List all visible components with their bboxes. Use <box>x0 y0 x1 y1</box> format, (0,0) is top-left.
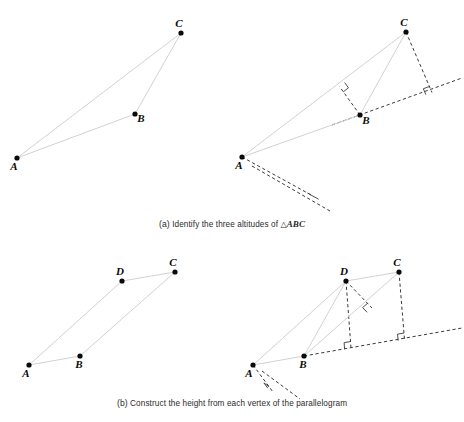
caption-b-text: Construct the height from each vertex of… <box>130 399 347 408</box>
edge-BC <box>360 32 406 115</box>
altitude-from-C-to-AB-extended <box>406 32 432 93</box>
caption-b: (b) Construct the height from each verte… <box>0 398 464 408</box>
vertex-label-B: B <box>74 358 82 370</box>
edge-BC <box>304 272 399 356</box>
altitude-from-B-to-AC <box>340 87 361 116</box>
caption-b-tag: (b) <box>117 398 128 408</box>
vertex-label-A: A <box>9 160 17 172</box>
panel-parallelogram-plain: ABCD <box>21 256 177 379</box>
edge-DA <box>253 281 346 365</box>
caption-a: (a) Identify the three altitudes of △ABC <box>0 219 464 229</box>
edge-AB <box>242 115 360 157</box>
altitude-from-D-to-BC <box>346 281 372 308</box>
vertex-C <box>178 30 183 35</box>
edge-BC <box>135 33 181 114</box>
vertex-label-C: C <box>169 256 177 268</box>
right-angle-mark <box>307 193 318 199</box>
vertex-label-C: C <box>175 17 183 29</box>
vertex-label-B: B <box>361 114 369 126</box>
geometry-figure: ABCABCABCDABCD (a) Identify the three al… <box>0 0 464 422</box>
edge-AC <box>242 32 406 157</box>
vertex-label-B: B <box>298 358 306 370</box>
panel-parallelogram-with-heights: ABCD <box>244 256 462 399</box>
panel-triangle-with-altitudes: ABC <box>234 16 462 211</box>
vertex-C <box>403 29 408 34</box>
vertex-label-A: A <box>21 367 29 379</box>
vertex-C <box>396 269 401 274</box>
vertex-label-A: A <box>244 367 252 379</box>
extension-line-BC-extended <box>252 166 330 211</box>
vertex-D <box>343 278 348 283</box>
extension-line-AB-extended <box>304 328 462 356</box>
caption-a-shape: ABC <box>287 219 305 229</box>
edge-DA <box>29 281 122 365</box>
edge-BC <box>80 272 175 356</box>
vertex-label-A: A <box>234 159 242 171</box>
caption-a-tag: (a) <box>159 219 170 229</box>
right-angle-mark <box>363 303 368 312</box>
edge-AC <box>17 33 181 158</box>
geometry-diagram-canvas: ABCABCABCDABCD <box>0 0 464 422</box>
edge-AB <box>253 356 304 365</box>
vertex-label-D: D <box>115 265 124 277</box>
caption-a-text: Identify the three altitudes of <box>172 220 278 229</box>
right-angle-mark <box>344 342 350 350</box>
panel-triangle-plain: ABC <box>9 17 183 172</box>
vertex-label-D: D <box>339 265 348 277</box>
vertex-label-C: C <box>400 16 408 28</box>
vertex-D <box>119 278 124 283</box>
altitude-from-A-to-BC-extended <box>253 365 273 392</box>
altitude-from-C-to-AB-extended <box>399 272 405 340</box>
vertex-label-B: B <box>136 112 144 124</box>
edge-AB <box>17 114 135 158</box>
vertex-C <box>172 269 177 274</box>
altitude-from-A-to-BC-extended <box>242 157 313 196</box>
vertex-label-C: C <box>393 256 401 268</box>
edge-BD <box>304 281 346 356</box>
right-angle-mark <box>343 83 348 92</box>
edge-AB <box>29 356 80 365</box>
